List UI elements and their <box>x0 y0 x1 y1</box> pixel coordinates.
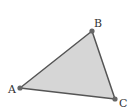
vertex-b-label: B <box>94 17 102 30</box>
triangle-abc <box>20 31 115 99</box>
vertex-a-point <box>17 85 22 90</box>
triangle-svg: A B C <box>0 0 136 109</box>
vertex-c-label: C <box>119 97 127 109</box>
vertex-c-point <box>112 96 117 101</box>
triangle-diagram: A B C <box>0 0 136 109</box>
vertex-a-label: A <box>7 83 17 96</box>
